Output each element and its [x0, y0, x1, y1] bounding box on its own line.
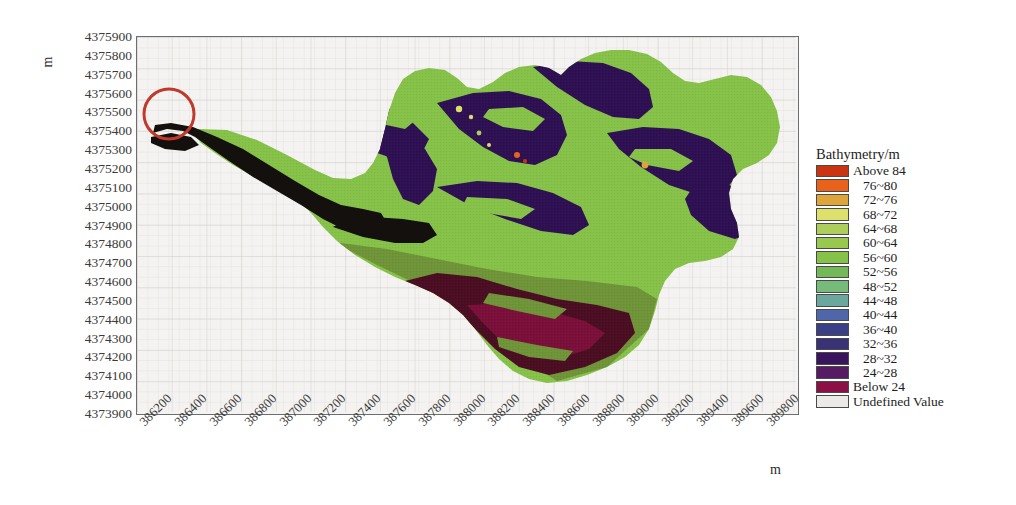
legend-row: 48~52 [816, 279, 1006, 293]
y-tick-label: 4374000 [60, 388, 132, 402]
y-tick-label: 4375700 [60, 68, 132, 82]
y-tick-label: 4374500 [60, 294, 132, 308]
legend-label: 28~32 [863, 352, 897, 366]
legend-label: 72~76 [863, 193, 897, 207]
legend-row: 24~28 [816, 365, 1006, 379]
legend-label: 32~36 [863, 337, 897, 351]
legend-row: 76~80 [816, 178, 1006, 192]
y-tick-label: 4375500 [60, 105, 132, 119]
legend-label: 36~40 [863, 323, 897, 337]
legend-color-swatch [816, 165, 849, 178]
y-tick-label: 4375400 [60, 124, 132, 138]
legend-color-swatch [816, 338, 849, 351]
legend-color-swatch [816, 309, 849, 322]
y-tick-label: 4374300 [60, 332, 132, 346]
legend-row: 60~64 [816, 236, 1006, 250]
legend-label: 56~60 [863, 251, 897, 265]
legend-color-swatch [816, 280, 849, 293]
legend-label: Undefined Value [853, 395, 944, 409]
y-tick-label: 4374200 [60, 350, 132, 364]
legend-color-swatch [816, 251, 849, 264]
legend-rows: Above 8476~8072~7668~7264~6860~6456~6052… [816, 164, 1006, 409]
y-tick-label: 4375900 [60, 30, 132, 44]
legend-label: 64~68 [863, 222, 897, 236]
legend-label: 52~56 [863, 265, 897, 279]
y-tick-label: 4374900 [60, 219, 132, 233]
legend-color-swatch [816, 237, 849, 250]
bathymetry-figure: m 43759004375800437570043756004375500437… [0, 0, 1016, 505]
map-plot-area[interactable] [136, 36, 799, 415]
legend-label: 76~80 [863, 179, 897, 193]
legend-color-swatch [816, 294, 849, 307]
y-tick-label: 4374700 [60, 256, 132, 270]
legend-row: Undefined Value [816, 394, 1006, 408]
y-tick-label: 4375600 [60, 87, 132, 101]
legend-color-swatch [816, 323, 849, 336]
legend-label: 68~72 [863, 208, 897, 222]
legend-row: 40~44 [816, 308, 1006, 322]
legend-label: Below 24 [853, 380, 905, 394]
legend-color-swatch [816, 179, 849, 192]
y-tick-label: 4374400 [60, 313, 132, 327]
legend-row: 64~68 [816, 222, 1006, 236]
bathymetry-legend: Bathymetry/m Above 8476~8072~7668~7264~6… [816, 146, 1006, 409]
y-axis-tick-labels: 4375900437580043757004375600437550043754… [60, 30, 132, 420]
legend-color-swatch [816, 208, 849, 221]
x-axis-unit-label: m [770, 462, 781, 478]
legend-row: 68~72 [816, 207, 1006, 221]
legend-title: Bathymetry/m [816, 146, 1006, 162]
y-tick-label: 4374600 [60, 275, 132, 289]
y-tick-label: 4375200 [60, 162, 132, 176]
legend-row: Above 84 [816, 164, 1006, 178]
legend-label: 24~28 [863, 366, 897, 380]
legend-color-swatch [816, 266, 849, 279]
legend-row: Below 24 [816, 380, 1006, 394]
y-tick-label: 4375300 [60, 143, 132, 157]
legend-color-swatch [816, 223, 849, 236]
legend-label: 44~48 [863, 294, 897, 308]
y-axis-unit-label: m [38, 52, 58, 72]
legend-label: 60~64 [863, 236, 897, 250]
legend-color-swatch [816, 395, 849, 408]
legend-color-swatch [816, 381, 849, 394]
legend-row: 72~76 [816, 193, 1006, 207]
y-tick-label: 4374100 [60, 369, 132, 383]
legend-row: 28~32 [816, 351, 1006, 365]
legend-label: 40~44 [863, 308, 897, 322]
legend-color-swatch [816, 366, 849, 379]
legend-color-swatch [816, 352, 849, 365]
legend-row: 56~60 [816, 250, 1006, 264]
legend-row: 36~40 [816, 322, 1006, 336]
y-tick-label: 4375800 [60, 49, 132, 63]
y-tick-label: 4375100 [60, 181, 132, 195]
bathymetry-map [137, 37, 796, 412]
legend-label: Above 84 [853, 164, 906, 178]
y-tick-label: 4375000 [60, 200, 132, 214]
legend-label: 48~52 [863, 280, 897, 294]
y-tick-label: 4373900 [60, 407, 132, 421]
legend-color-swatch [816, 194, 849, 207]
y-tick-label: 4374800 [60, 237, 132, 251]
legend-row: 52~56 [816, 265, 1006, 279]
legend-row: 44~48 [816, 294, 1006, 308]
legend-row: 32~36 [816, 337, 1006, 351]
